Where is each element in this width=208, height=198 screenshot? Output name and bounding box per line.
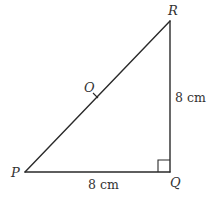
measurement-qr: 8 cm [175,90,206,105]
vertex-label-r: R [167,3,178,18]
right-angle-marker [158,160,170,172]
vertex-label-q: Q [170,175,181,190]
measurement-pq: 8 cm [88,177,119,192]
edge-pr-hypotenuse [25,21,170,172]
triangle-diagram: R Q P O 8 cm 8 cm [0,0,208,198]
vertex-label-p: P [10,165,20,180]
point-label-o: O [84,80,95,95]
